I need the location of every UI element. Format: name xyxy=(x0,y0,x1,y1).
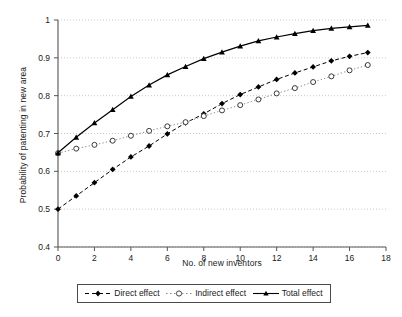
data-point-direct-effect xyxy=(110,167,116,173)
y-tick-label: 0.5 xyxy=(22,204,50,214)
x-tick-label: 14 xyxy=(303,253,323,263)
x-tick-label: 12 xyxy=(267,253,287,263)
data-point-indirect-effect xyxy=(201,114,206,119)
data-point-direct-effect xyxy=(164,131,170,137)
x-tick-label: 16 xyxy=(340,253,360,263)
data-point-direct-effect xyxy=(310,64,316,70)
data-point-indirect-effect xyxy=(256,97,261,102)
legend-marker-total-effect xyxy=(253,289,279,298)
x-tick-label: 4 xyxy=(121,253,141,263)
series-line-direct-effect xyxy=(58,53,368,210)
legend-marker-indirect-effect xyxy=(166,289,192,298)
data-point-direct-effect xyxy=(347,53,353,59)
x-tick-label: 6 xyxy=(157,253,177,263)
data-point-total-effect xyxy=(146,82,152,87)
data-point-indirect-effect xyxy=(110,138,115,143)
chart-figure: Probability of patenting in new area No.… xyxy=(0,0,402,317)
data-point-direct-effect xyxy=(146,143,152,149)
data-point-indirect-effect xyxy=(165,124,170,129)
y-tick-label: 0.6 xyxy=(22,166,50,176)
x-tick-label: 0 xyxy=(48,253,68,263)
data-point-indirect-effect xyxy=(238,103,243,108)
data-point-direct-effect xyxy=(365,50,371,56)
data-point-total-effect xyxy=(164,72,170,77)
series-line-indirect-effect xyxy=(58,65,368,153)
data-point-indirect-effect xyxy=(147,128,152,133)
data-point-total-effect xyxy=(183,64,189,69)
data-point-indirect-effect xyxy=(292,86,297,91)
y-tick-label: 1 xyxy=(22,15,50,25)
y-tick-label: 0.9 xyxy=(22,53,50,63)
data-point-direct-effect xyxy=(73,193,79,199)
data-point-indirect-effect xyxy=(74,146,79,151)
data-point-indirect-effect xyxy=(311,80,316,85)
legend-label-direct-effect: Direct effect xyxy=(114,289,159,298)
data-point-indirect-effect xyxy=(347,68,352,73)
legend-item-direct-effect: Direct effect xyxy=(85,289,159,298)
legend-label-indirect-effect: Indirect effect xyxy=(195,289,246,298)
data-point-direct-effect xyxy=(256,84,262,90)
data-point-direct-effect xyxy=(128,154,134,160)
series-line-total-effect xyxy=(58,25,368,152)
y-tick-label: 0.7 xyxy=(22,129,50,139)
legend-item-total-effect: Total effect xyxy=(253,289,323,298)
data-point-indirect-effect xyxy=(329,74,334,79)
x-tick-label: 2 xyxy=(84,253,104,263)
y-tick-label: 0.8 xyxy=(22,91,50,101)
plot-area xyxy=(0,0,402,317)
data-point-direct-effect xyxy=(328,58,334,64)
data-point-direct-effect xyxy=(237,92,243,98)
data-point-indirect-effect xyxy=(183,120,188,125)
y-tick-label: 0.4 xyxy=(22,242,50,252)
data-point-total-effect xyxy=(128,94,134,99)
legend-marker-direct-effect xyxy=(85,289,111,298)
data-point-indirect-effect xyxy=(128,133,133,138)
data-point-indirect-effect xyxy=(274,91,279,96)
legend-item-indirect-effect: Indirect effect xyxy=(166,289,246,298)
data-point-indirect-effect xyxy=(365,63,370,68)
data-point-direct-effect xyxy=(219,101,225,107)
data-point-direct-effect xyxy=(292,70,298,76)
data-point-indirect-effect xyxy=(92,142,97,147)
x-tick-label: 8 xyxy=(194,253,214,263)
chart-legend: Direct effect Indirect effect Total effe… xyxy=(77,284,331,303)
legend-label-total-effect: Total effect xyxy=(282,289,323,298)
x-tick-label: 10 xyxy=(230,253,250,263)
data-point-direct-effect xyxy=(274,76,280,82)
x-tick-label: 18 xyxy=(376,253,396,263)
data-point-indirect-effect xyxy=(220,108,225,113)
